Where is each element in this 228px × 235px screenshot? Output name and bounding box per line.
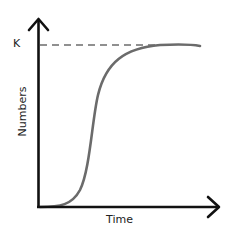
y-axis-label: Numbers bbox=[16, 82, 29, 142]
growth-curve bbox=[40, 45, 200, 207]
x-axis-label: Time bbox=[106, 213, 133, 226]
k-label: K bbox=[13, 37, 20, 50]
logistic-growth-chart bbox=[0, 0, 228, 235]
